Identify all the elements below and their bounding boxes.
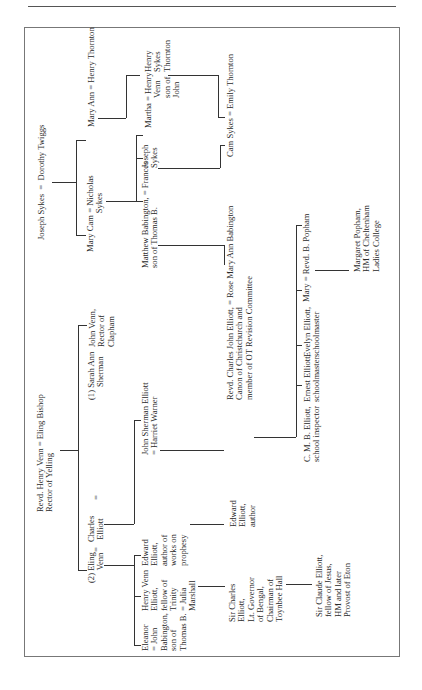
connector [296,290,302,291]
node-sarah-ann-sherman: (1) Sarah Ann Sherman [87,352,106,400]
node-henry-sykes-thornton: Henry Sykes Thornton [144,40,172,72]
connector [296,345,302,346]
node-matthew-babington-frances: Matthew Babington, = Frances son of Thom… [141,161,160,268]
connector [158,245,224,246]
connector [296,385,302,386]
connector [160,450,224,451]
equals-sign: = [92,495,101,500]
connector [220,145,221,168]
connector [136,201,143,202]
connector [220,145,225,146]
connector [78,325,79,570]
connector [190,524,224,525]
node-eling-venn: (2) Eling Venn [87,552,106,583]
connector [104,524,134,525]
node-ernest-elliott: Ernest Elliott, schoolmaster [303,354,322,402]
connector [254,437,296,438]
node-edward-elliott-author: Edward Elliott, author [229,500,257,527]
connector [134,555,135,645]
connector [296,225,297,437]
node-edward-elliott-prophesy: Edward Elliott, author of works on proph… [141,534,188,566]
equals-sign: = [92,547,101,552]
connector [286,584,312,585]
node-sir-claude-elliott: Sir Claude Elliott, fellow of Jesus, HM … [315,555,353,617]
node-john-sherman-elliott: John Sherman Elliott = Harriet Warner [141,382,160,455]
connector [76,235,86,236]
connector [218,75,219,117]
node-revd-henry-venn-eling-bishop: Revd. Henry Venn = Eling Bishop Rector o… [36,394,55,512]
connector [198,586,225,587]
running-head: THE BOOK [0,0,422,2]
node-charles-elliott: Charles Elliott [87,516,106,542]
node-martha-henry-venn: Martha = Henry Venn son of John [144,73,182,128]
connector [78,570,87,571]
connector [296,225,302,226]
node-revd-charles-john-elliott: Revd. Charles John Elliott, = Rose Mary … [226,206,254,400]
connector [134,596,141,597]
node-henry-venn-elliott: Henry Venn Elliott, fellow of Trinity = … [141,570,197,611]
connector [136,135,137,201]
connector [136,135,143,136]
node-cam-sykes-emily-thornton: Cam Sykes = Emily Thornton [226,54,235,157]
connector [134,555,141,556]
node-joseph-sykes-dorothy-twiggs: Joseph Sykes = Dorothy Twiggs [37,125,46,240]
header-rule [28,6,396,7]
connector [134,645,141,646]
connector [218,117,225,118]
node-mary-popham: Mary = Revd. B. Popham [302,214,311,302]
connector [76,140,86,141]
connector [126,75,127,118]
connector [136,158,143,159]
node-john-venn: John Venn, Rector of Clapham [88,309,116,347]
connector [76,140,77,235]
node-cmb-elliott: C. M. B. Elliott, school inspector [303,406,322,462]
connector [78,325,87,326]
connector [134,420,141,421]
connector [98,118,126,119]
connector [60,450,78,451]
connector [168,75,218,76]
node-sir-charles-elliott: Sir Charles Elliott, Lt. Governor of Ben… [228,576,284,622]
connector [106,201,136,202]
node-margaret-popham: Margaret Popham, HM of Cheltenham Ladies… [353,205,381,272]
node-mary-ann-henry-thornton: Mary Ann = Henry Thornton [87,27,96,127]
connector [158,168,220,169]
connector [126,75,140,76]
node-evelyn-elliott: Evelyn Elliott, schoolmaster [303,307,322,357]
connector [315,270,349,271]
connector [134,420,135,524]
node-eleanor-babington: Eleanor = John Babington, son of Thomas … [141,613,188,651]
connector [52,182,76,183]
node-mary-cam-nicholas-sykes: Mary Cam = Nicholas Sykes [86,175,105,252]
connector [104,565,134,566]
